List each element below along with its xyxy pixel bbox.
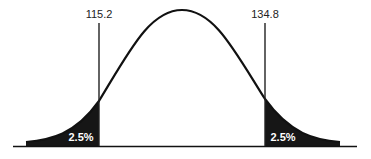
upper-critical-value-label: 134.8 — [251, 8, 279, 20]
normal-distribution-chart: 115.2 134.8 2.5% 2.5% — [0, 0, 371, 159]
upper-tail-percent-label: 2.5% — [270, 131, 295, 143]
lower-tail-percent-label: 2.5% — [68, 131, 93, 143]
normal-curve — [26, 10, 340, 142]
lower-critical-value-label: 115.2 — [86, 8, 113, 20]
